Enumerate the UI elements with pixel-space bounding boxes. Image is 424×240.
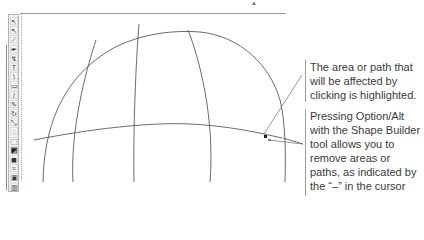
meridian-3 — [188, 30, 211, 182]
equator-path — [34, 124, 282, 140]
meridian-2 — [134, 24, 139, 182]
callout-remove-areas: Pressing Option/Alt with the Shape Build… — [305, 109, 423, 196]
callout-highlight: The area or path that will be affected b… — [305, 60, 423, 102]
globe-outline — [43, 31, 285, 182]
meridian-1 — [73, 40, 96, 182]
leader-line-1 — [264, 75, 302, 134]
